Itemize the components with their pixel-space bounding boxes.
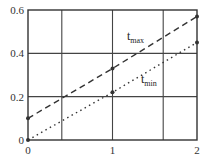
data-point-marker bbox=[111, 90, 115, 94]
data-point-marker bbox=[26, 116, 30, 120]
gridlines bbox=[28, 10, 197, 140]
y-tick-label: 0.2 bbox=[10, 91, 24, 103]
x-tick-label: 2 bbox=[194, 144, 200, 156]
y-axis-ticks: 00.20.40.6 bbox=[10, 4, 24, 146]
data-point-marker bbox=[26, 138, 30, 142]
data-point-marker bbox=[195, 41, 199, 45]
x-tick-label: 1 bbox=[110, 144, 116, 156]
data-point-marker bbox=[195, 15, 199, 19]
series-label-t-min: tmin bbox=[141, 72, 157, 88]
series-label-t-max: tmax bbox=[127, 29, 144, 45]
series-labels: tmaxtmin bbox=[127, 29, 157, 88]
y-tick-label: 0.6 bbox=[10, 4, 24, 16]
data-point-marker bbox=[111, 67, 115, 71]
x-axis-ticks: 012 bbox=[25, 144, 200, 156]
x-tick-label: 0 bbox=[25, 144, 31, 156]
y-tick-label: 0 bbox=[19, 134, 25, 146]
line-chart: 00.20.40.6 012 tmaxtmin bbox=[0, 0, 203, 162]
y-tick-label: 0.4 bbox=[10, 47, 24, 59]
